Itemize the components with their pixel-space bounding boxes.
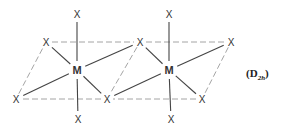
point-group-symbol: D xyxy=(250,67,258,79)
ligand-atom-x3: X xyxy=(43,37,50,48)
bond-m1-x2 xyxy=(77,79,78,111)
dashed-equatorial-planes xyxy=(19,42,228,99)
symmetry-label: (D2h) xyxy=(246,67,269,82)
ligand-atom-x7: X xyxy=(166,9,173,20)
svg-text:(D2h): (D2h) xyxy=(246,67,269,82)
ligand-atom-x5: X xyxy=(13,94,20,105)
bond-m2-x10 xyxy=(176,76,196,94)
metal-atom-m1: M xyxy=(72,64,81,76)
point-group-subscript: 2h xyxy=(257,74,266,82)
ligand-atom-x10: X xyxy=(199,94,206,105)
symmetry-close-paren: ) xyxy=(265,67,269,80)
bond-m1-x3 xyxy=(52,47,70,64)
bond-m1-x4 xyxy=(85,45,132,66)
atom-labels: XMXXXXXXMXXX xyxy=(13,9,235,125)
bond-m1-x6 xyxy=(83,76,101,93)
metal-atom-m2: M xyxy=(164,64,173,76)
ligand-atom-x2: X xyxy=(75,114,82,125)
ligand-atom-x6: X xyxy=(104,94,111,105)
bond-m2-x9 xyxy=(177,45,224,66)
bond-m2-x6 xyxy=(114,74,161,96)
ligand-atom-x4: X xyxy=(137,37,144,48)
bond-m2-x4 xyxy=(146,48,163,64)
bond-m2-x8 xyxy=(169,79,170,111)
dashed-edge-x9-x10 xyxy=(205,47,229,93)
bond-m1-x5 xyxy=(23,74,69,96)
m2x10-structure-diagram: XMXXXXXXMXXX (D2h) xyxy=(0,0,282,129)
metal-ligand-bonds xyxy=(23,22,223,111)
ligand-atom-x8: X xyxy=(168,114,175,125)
ligand-atom-x9: X xyxy=(228,37,235,48)
ligand-atom-x1: X xyxy=(74,9,81,20)
dashed-edge-x5-x3 xyxy=(19,47,43,93)
